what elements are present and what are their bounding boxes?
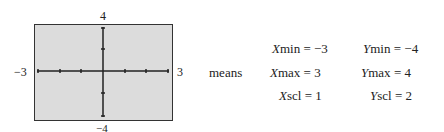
yscl-setting: Yscl = 2 xyxy=(370,89,412,103)
xscl-setting: Xscl = 1 xyxy=(279,89,322,103)
ymax-setting: Ymax = 4 xyxy=(361,66,411,80)
xmax-setting: Xmax = 3 xyxy=(270,66,321,80)
means-label: means xyxy=(209,66,242,80)
ymin-setting: Ymin = −4 xyxy=(363,42,418,56)
xmin-setting: Xmin = −3 xyxy=(272,42,328,56)
